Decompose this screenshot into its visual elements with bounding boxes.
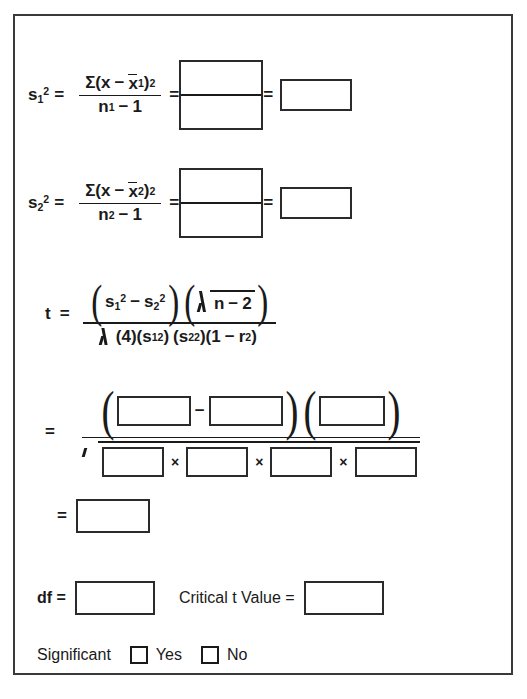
substitution-times-3: × [332, 454, 354, 470]
variance1-fraction: Σ(x−x1)2 n1−1 [79, 72, 161, 119]
sqrt-n-minus-2-radicand: n−2 [210, 290, 255, 314]
substitution-times-1: × [164, 454, 186, 470]
df-critical-row: df = Critical t Value = [37, 581, 384, 615]
substitution-numerator: ( − ) ( ) [93, 386, 409, 437]
df-blank[interactable] [75, 581, 155, 615]
significant-label: Significant [37, 646, 111, 664]
variance1-lhs: s12 [28, 85, 49, 105]
variance2-denominator: n2−1 [92, 204, 148, 226]
result-equals: = [57, 506, 76, 526]
t-statistic-fraction: ( s12−s22 ) ( n−2 ) [83, 280, 276, 348]
variance2-formula-row: s22 = Σ(x−x2)2 n2−1 = = [28, 168, 352, 238]
worksheet-frame: s12 = Σ(x−x1)2 n1−1 = = s22 [13, 14, 513, 675]
sqrt-n-minus-2: n−2 [197, 290, 255, 314]
variance2-result-blank[interactable] [280, 187, 352, 219]
t-statistic-denominator: (4)(s12)(s22)(1−r2) [93, 324, 266, 348]
paren-open-left: ( [91, 281, 102, 322]
variance2-blank-denominator-cell [179, 204, 263, 238]
variance1-equals-2: = [161, 85, 179, 105]
df-label: df = [37, 589, 66, 607]
variance1-blank-denominator-cell [179, 96, 263, 130]
substitution-row: = ( − ) ( ) × × [45, 386, 420, 477]
substitution-blank-3[interactable] [319, 396, 385, 426]
radical-hook-icon [197, 290, 210, 314]
variance2-equals-2: = [161, 193, 179, 213]
variance1-denominator: n1−1 [92, 96, 148, 118]
t-num-variance-difference: s12−s22 [104, 292, 166, 312]
variance1-blank-denominator[interactable] [179, 96, 263, 130]
variance1-numerator: Σ(x−x1)2 [79, 72, 161, 95]
sqrt-substitution: × × × [82, 441, 420, 477]
sqrt-denominator-radicand: (4)(s12)(s22)(1−r2) [112, 327, 260, 347]
substitution-equals: = [45, 422, 60, 442]
variance1-blank-fraction [179, 60, 263, 130]
t-statistic-formula-row: t = ( s12−s22 ) ( n−2 ) [45, 280, 276, 348]
variance2-numerator: Σ(x−x2)2 [79, 180, 161, 203]
variance2-blank-fraction [179, 168, 263, 238]
variance1-blank-numerator[interactable] [179, 60, 263, 94]
variance1-equals-1: = [49, 85, 69, 105]
substitution-denominator-blank-3[interactable] [270, 447, 332, 477]
substitution-denominator-blank-2[interactable] [186, 447, 248, 477]
checkbox-no-label: No [227, 646, 247, 664]
x-bar-symbol: x [128, 181, 137, 202]
substitution-fraction: ( − ) ( ) × × [82, 386, 420, 477]
paren-open-right: ( [303, 387, 316, 436]
substitution-times-2: × [248, 454, 270, 470]
variance2-lhs: s22 [28, 193, 49, 213]
checkbox-yes-label: Yes [156, 646, 182, 664]
sqrt-substitution-radicand: × × × [98, 441, 420, 477]
paren-close-left: ) [168, 281, 179, 322]
radical-hook-icon [99, 327, 112, 347]
substitution-denominator-blank-4[interactable] [355, 447, 417, 477]
substitution-blank-1[interactable] [117, 396, 191, 426]
substitution-denominator-blank-1[interactable] [102, 447, 164, 477]
t-statistic-equals: = [51, 304, 75, 324]
t-statistic-numerator: ( s12−s22 ) ( n−2 ) [83, 280, 276, 322]
significance-row: Significant Yes No [37, 646, 247, 664]
variance2-blank-numerator-cell [179, 168, 263, 202]
critical-t-label: Critical t Value = [179, 589, 295, 607]
variance1-blank-numerator-cell [179, 60, 263, 94]
x-bar-symbol: x [128, 73, 137, 94]
paren-close-right: ) [387, 387, 400, 436]
variance1-equals-3: = [263, 85, 280, 105]
paren-close-left: ) [285, 387, 298, 436]
variance1-formula-row: s12 = Σ(x−x1)2 n1−1 = = [28, 60, 352, 130]
variance1-result-blank[interactable] [280, 79, 352, 111]
paren-close-right: ) [257, 281, 268, 322]
paren-open-left: ( [101, 387, 114, 436]
checkbox-no[interactable] [201, 646, 219, 664]
critical-t-blank[interactable] [304, 581, 384, 615]
variance2-fraction: Σ(x−x2)2 n2−1 [79, 180, 161, 227]
substitution-minus: − [191, 401, 209, 421]
variance2-blank-denominator[interactable] [179, 204, 263, 238]
variance2-equals-1: = [49, 193, 69, 213]
substitution-denominator: × × × [82, 438, 420, 477]
variance2-equals-3: = [263, 193, 280, 213]
checkbox-yes[interactable] [130, 646, 148, 664]
paren-open-right: ( [184, 281, 195, 322]
substitution-blank-2[interactable] [209, 396, 283, 426]
result-row: = [57, 499, 150, 533]
variance2-blank-numerator[interactable] [179, 168, 263, 202]
result-blank[interactable] [76, 499, 150, 533]
sqrt-denominator: (4)(s12)(s22)(1−r2) [99, 327, 260, 347]
